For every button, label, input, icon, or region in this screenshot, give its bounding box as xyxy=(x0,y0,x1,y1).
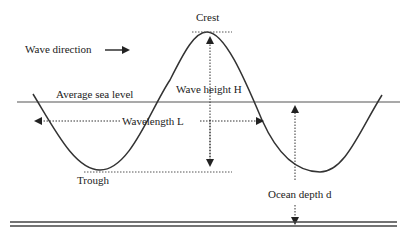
wave-diagram: Crest Wave direction Average sea level W… xyxy=(0,0,413,240)
average-sea-level-label: Average sea level xyxy=(56,88,133,100)
ocean-depth-label: Ocean depth d xyxy=(268,188,332,200)
wave-direction-label: Wave direction xyxy=(25,43,92,55)
wavelength-label: Wavelength L xyxy=(122,115,184,127)
trough-label: Trough xyxy=(77,174,109,186)
wave-height-label: Wave height H xyxy=(176,83,242,95)
crest-label: Crest xyxy=(196,11,219,23)
